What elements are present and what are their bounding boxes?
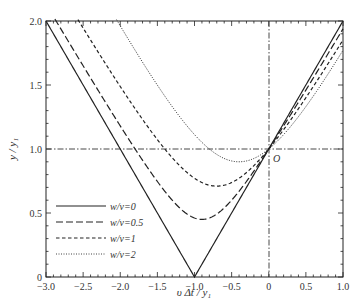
- series-line: [46, 21, 343, 277]
- y-tick-label: 1.5: [30, 80, 43, 91]
- legend-label: w/v=0.5: [110, 217, 143, 228]
- y-tick-label: 2.0: [30, 16, 43, 27]
- x-tick-label: 0.5: [300, 281, 313, 292]
- y-axis-label: y / y₁: [6, 138, 18, 161]
- x-tick-label: −2.5: [74, 281, 92, 292]
- y-tick-label: 0: [37, 272, 42, 283]
- y-tick-label: 0.5: [30, 208, 43, 219]
- x-tick-label: −0.5: [223, 281, 241, 292]
- plot-frame: [46, 21, 343, 277]
- series-curves: [46, 19, 343, 277]
- x-tick-label: −1.5: [148, 281, 166, 292]
- series-line: [117, 20, 343, 162]
- origin-label: O: [273, 153, 280, 164]
- legend-label: w/v=1: [110, 233, 136, 244]
- legend: w/v=0 w/v=0.5 w/v=1 w/v=2: [56, 201, 143, 260]
- legend-label: w/v=0: [110, 201, 136, 212]
- series-line: [55, 19, 343, 219]
- y-tick-label: 1.0: [30, 144, 43, 155]
- x-axis-label: υ Δt / y₁: [177, 286, 212, 298]
- chart: −3.0−2.5−2.0−1.5−1.0−0.500.51.000.51.01.…: [0, 0, 353, 299]
- series-line: [78, 20, 343, 187]
- x-tick-label: 0: [266, 281, 271, 292]
- x-tick-label: 1.0: [337, 281, 350, 292]
- x-tick-label: −2.0: [111, 281, 129, 292]
- legend-label: w/v=2: [110, 249, 136, 260]
- axis-ticks: [46, 21, 343, 277]
